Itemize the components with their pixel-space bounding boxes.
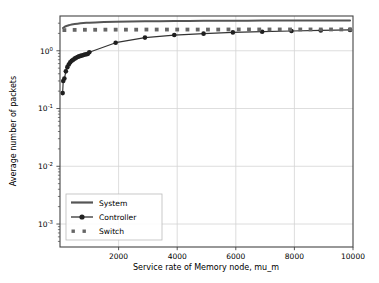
data-point-controller: [172, 33, 177, 38]
data-point-controller: [143, 35, 148, 40]
x-tick-label: 2000: [109, 252, 128, 261]
data-point-controller: [113, 40, 118, 45]
data-point-switch: [145, 28, 149, 32]
data-point-switch: [73, 28, 77, 32]
data-point-controller: [64, 69, 69, 74]
data-point-switch: [62, 28, 66, 32]
data-point-switch: [339, 28, 343, 32]
chart-legend[interactable]: System Controller Switch: [66, 194, 162, 240]
x-tick-label: 4000: [168, 252, 187, 261]
data-point-switch: [83, 28, 87, 32]
data-point-switch: [206, 28, 210, 32]
y-tick-label: 10-1: [38, 103, 53, 113]
legend-swatch-controller-marker-icon: [79, 214, 84, 219]
data-point-switch: [155, 28, 159, 32]
data-point-switch: [134, 28, 138, 32]
data-point-switch: [329, 28, 333, 32]
data-point-switch: [268, 28, 272, 32]
data-point-switch: [165, 28, 169, 32]
x-tick-labels: 200040006000800010000: [109, 252, 365, 261]
y-tick-label: 10-2: [38, 161, 53, 171]
y-tick-label: 100: [40, 46, 54, 56]
data-point-switch: [247, 28, 251, 32]
data-point-switch: [319, 28, 323, 32]
data-point-controller: [201, 31, 206, 36]
data-point-controller: [62, 76, 67, 81]
data-point-controller: [231, 30, 236, 35]
data-point-switch: [237, 28, 241, 32]
x-tick-label: 10000: [341, 252, 365, 261]
data-point-switch: [196, 28, 200, 32]
data-point-switch: [257, 28, 261, 32]
data-point-switch: [309, 28, 313, 32]
data-point-switch: [298, 28, 302, 32]
data-point-switch: [114, 28, 118, 32]
legend-swatch-switch-marker-icon-a: [72, 230, 75, 233]
chart-canvas: 200040006000800010000 10010-110-210-3 Se…: [0, 0, 379, 283]
data-point-switch: [216, 28, 220, 32]
data-point-switch: [104, 28, 108, 32]
x-axis-title: Service rate of Memory node, mu_m: [133, 263, 279, 272]
data-point-switch: [278, 28, 282, 32]
data-point-switch: [124, 28, 128, 32]
data-point-switch: [227, 28, 231, 32]
y-tick-labels: 10010-110-210-3: [38, 46, 53, 229]
x-tick-label: 6000: [226, 252, 245, 261]
y-axis-title: Average number of packets: [9, 76, 18, 186]
chart-figure: 200040006000800010000 10010-110-210-3 Se…: [0, 0, 379, 283]
data-point-switch: [186, 28, 190, 32]
x-tick-label: 8000: [285, 252, 304, 261]
data-point-switch: [348, 28, 352, 32]
data-point-switch: [175, 28, 179, 32]
legend-label-system: System: [99, 199, 127, 208]
y-tick-label: 10-3: [38, 219, 53, 229]
data-point-controller: [60, 91, 65, 96]
legend-label-controller: Controller: [99, 213, 137, 222]
data-point-switch: [288, 28, 292, 32]
legend-label-switch: Switch: [99, 227, 124, 236]
data-point-switch: [93, 28, 97, 32]
data-point-controller: [87, 50, 92, 55]
legend-swatch-switch-marker-icon-b: [83, 230, 86, 233]
